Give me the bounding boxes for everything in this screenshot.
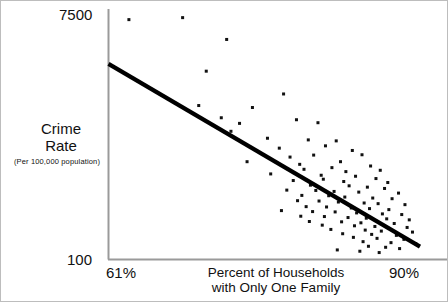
- data-point: [361, 153, 364, 156]
- data-point: [278, 147, 281, 150]
- data-point: [325, 205, 328, 208]
- data-point: [251, 106, 254, 109]
- data-point: [385, 217, 388, 220]
- data-point: [292, 179, 295, 182]
- y-axis-tick-label-bottom: 100: [67, 252, 92, 269]
- data-point: [390, 241, 393, 244]
- data-point: [322, 178, 325, 181]
- data-point: [323, 215, 326, 218]
- data-point: [340, 220, 343, 223]
- data-point: [379, 169, 382, 172]
- data-point: [336, 248, 339, 251]
- data-point: [335, 139, 338, 142]
- data-point: [266, 137, 269, 140]
- x-axis-tick-label-left: 61%: [106, 265, 136, 282]
- data-point: [220, 116, 223, 119]
- data-point: [342, 180, 345, 183]
- data-point: [357, 191, 360, 194]
- data-point: [197, 104, 200, 107]
- data-point: [341, 232, 344, 235]
- data-point: [238, 122, 241, 125]
- data-point: [334, 210, 337, 213]
- data-point: [384, 246, 387, 249]
- scatter-plot-figure: 7500 100 Crime Rate (Per 100,000 populat…: [0, 0, 448, 302]
- data-point: [316, 121, 319, 124]
- data-point: [353, 224, 356, 227]
- data-point: [358, 250, 361, 253]
- data-point: [282, 92, 285, 95]
- data-point: [269, 172, 272, 175]
- data-point: [363, 202, 366, 205]
- data-point: [302, 168, 305, 171]
- data-point: [368, 207, 371, 210]
- data-point: [364, 229, 367, 232]
- data-point: [300, 194, 303, 197]
- data-point: [289, 156, 292, 159]
- data-point: [311, 210, 314, 213]
- data-point: [318, 200, 321, 203]
- data-point: [370, 233, 373, 236]
- data-point: [381, 212, 384, 215]
- data-point: [181, 16, 184, 19]
- data-point: [347, 216, 350, 219]
- axis-lines: [108, 9, 448, 260]
- data-point: [411, 231, 414, 234]
- data-point: [299, 215, 302, 218]
- data-point: [367, 245, 370, 248]
- data-point: [408, 218, 411, 221]
- data-point: [371, 197, 374, 200]
- data-point: [391, 197, 394, 200]
- data-point: [321, 224, 324, 227]
- data-point: [406, 226, 409, 229]
- data-point: [285, 189, 288, 192]
- regression-trendline: [109, 64, 421, 247]
- data-point: [387, 208, 390, 211]
- data-point: [366, 186, 369, 189]
- data-point: [307, 138, 310, 141]
- data-point: [377, 202, 380, 205]
- x-axis-title: Percent of Households with Only One Fami…: [186, 265, 366, 295]
- x-axis-title-line-1: Percent of Households: [186, 265, 366, 280]
- data-point: [295, 118, 298, 121]
- data-point: [398, 247, 401, 250]
- data-point: [314, 189, 317, 192]
- data-point: [378, 251, 381, 254]
- data-point: [330, 166, 333, 169]
- x-axis-tick-label-right: 90%: [389, 265, 419, 282]
- data-point: [205, 70, 208, 73]
- data-point: [369, 165, 372, 168]
- data-point: [376, 237, 379, 240]
- data-point: [344, 170, 347, 173]
- data-point: [393, 222, 396, 225]
- data-point: [312, 154, 315, 157]
- data-point: [280, 209, 283, 212]
- y-axis-tick-label-top: 7500: [59, 7, 92, 24]
- data-point: [380, 230, 383, 233]
- data-point: [296, 199, 299, 202]
- data-point: [359, 221, 362, 224]
- y-axis-subtitle-units: (Per 100,000 population): [9, 158, 105, 166]
- data-point: [333, 190, 336, 193]
- data-point: [397, 192, 400, 195]
- data-point: [324, 144, 327, 147]
- data-point: [320, 174, 323, 177]
- data-point: [308, 220, 311, 223]
- data-point: [354, 175, 357, 178]
- data-point: [403, 203, 406, 206]
- data-point: [343, 196, 346, 199]
- y-axis-title-line-2: Rate: [19, 138, 103, 155]
- data-point: [305, 205, 308, 208]
- data-point: [352, 236, 355, 239]
- data-point: [298, 163, 301, 166]
- data-point: [362, 240, 365, 243]
- y-axis-title: Crime Rate: [19, 121, 103, 155]
- data-point: [229, 130, 232, 133]
- data-point: [348, 184, 351, 187]
- data-point: [339, 160, 342, 163]
- data-point: [386, 181, 389, 184]
- data-point: [400, 213, 403, 216]
- data-point: [351, 149, 354, 152]
- data-point: [329, 228, 332, 231]
- data-point: [374, 177, 377, 180]
- data-point: [225, 38, 228, 41]
